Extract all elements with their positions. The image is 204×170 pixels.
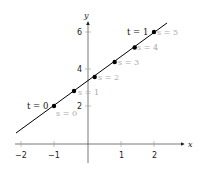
s3-label: s = 3 bbox=[118, 58, 139, 67]
x-axis-label: x bbox=[188, 140, 193, 149]
point-s1 bbox=[72, 89, 76, 93]
s0-label: s = 0 bbox=[56, 109, 77, 118]
chart-canvas: x y −2 −1 1 2 2 4 6 t = 0 t = 1 s = 0 s … bbox=[0, 0, 204, 170]
s2-label: s = 2 bbox=[98, 73, 119, 82]
t0-label: t = 0 bbox=[27, 101, 48, 111]
x-tick-label: 2 bbox=[152, 151, 157, 160]
s5-label: s = 5 bbox=[157, 28, 178, 37]
y-tick-label: 2 bbox=[77, 102, 82, 111]
s1-label: s = 1 bbox=[78, 88, 99, 97]
x-tick-label: 1 bbox=[119, 151, 124, 160]
point-s0 bbox=[52, 104, 56, 108]
s4-label: s = 4 bbox=[137, 43, 158, 52]
x-tick-label: −1 bbox=[48, 151, 60, 160]
point-s3 bbox=[113, 60, 117, 64]
point-s5 bbox=[152, 30, 156, 34]
t1-label: t = 1 bbox=[127, 27, 148, 37]
data-line bbox=[16, 23, 167, 133]
y-tick-label: 4 bbox=[77, 65, 82, 74]
x-tick-label: −2 bbox=[15, 151, 27, 160]
y-axis-label: y bbox=[83, 11, 89, 20]
y-tick-label: 6 bbox=[77, 28, 82, 37]
point-s2 bbox=[93, 75, 97, 79]
